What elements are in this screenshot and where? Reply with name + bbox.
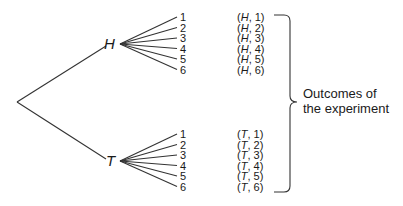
annotation-line-2: the experiment [303, 101, 389, 116]
outcomes-brace [274, 15, 297, 192]
tails-die-leaves: 123456 [180, 128, 186, 193]
node-tails: T [106, 152, 117, 169]
edge-root-tails [17, 102, 106, 159]
heads-outcome-list: (H, 1)(H, 2)(H, 3)(H, 4)(H, 5)(H, 6) [237, 11, 265, 76]
tails-die-face-6: 6 [180, 181, 186, 193]
edge-root-heads [17, 46, 106, 102]
tree-edges [17, 17, 177, 187]
heads-outcome-6: (H, 6) [237, 64, 265, 76]
annotation-line-1: Outcomes of [303, 86, 377, 101]
tails-outcome-6: (T, 6) [237, 181, 263, 193]
node-heads: H [104, 35, 115, 52]
heads-die-leaves: 123456 [180, 11, 186, 76]
tree-nodes: H T [104, 35, 117, 169]
tree-diagram: H T 123456 123456 (H, 1)(H, 2)(H, 3)(H, … [0, 0, 403, 206]
tails-outcome-list: (T, 1)(T, 2)(T, 3)(T, 4)(T, 5)(T, 6) [237, 128, 263, 193]
heads-die-face-6: 6 [180, 64, 186, 76]
